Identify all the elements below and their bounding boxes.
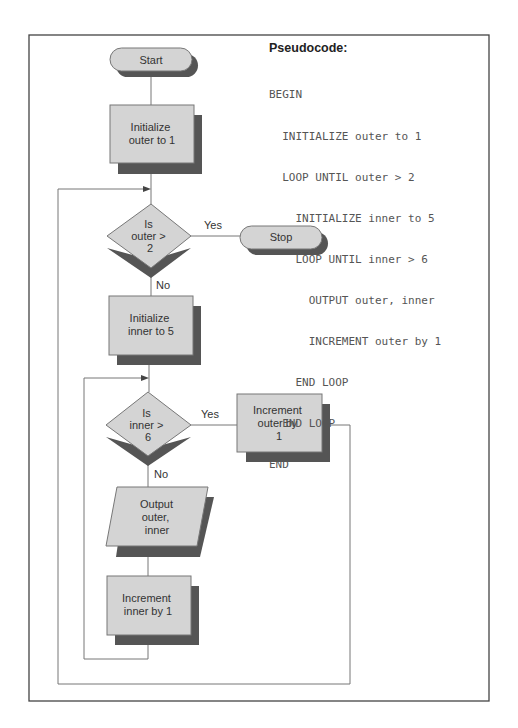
- init-inner-line-2: inner to 5: [128, 325, 174, 337]
- decision-outer-no-label: No: [156, 279, 170, 291]
- decision-outer-line-3: 2: [147, 242, 153, 254]
- figure: Start Initialize outer to 1 Is outer > 2…: [0, 0, 518, 728]
- decision-outer-line-2: outer >: [131, 230, 166, 242]
- decision-outer-line-1: Is: [144, 218, 153, 230]
- pseudocode-line: INCREMENT outer by 1: [269, 335, 441, 349]
- output-line-1: Output: [140, 498, 173, 510]
- pseudocode-line: END LOOP: [269, 417, 441, 431]
- decision-inner-yes-label: Yes: [201, 408, 219, 420]
- pseudocode-line: OUTPUT outer, inner: [269, 294, 441, 308]
- decision-inner-line-3: 6: [145, 431, 151, 443]
- init-outer-line-2: outer to 1: [129, 134, 175, 146]
- decision-outer-yes-label: Yes: [204, 219, 222, 231]
- decision-inner-no-label: No: [154, 468, 168, 480]
- pseudocode-line: BEGIN: [269, 88, 441, 102]
- output-line-3: inner: [145, 524, 170, 536]
- init-outer-box: Initialize outer to 1: [110, 105, 202, 174]
- decision-inner-line-2: inner >: [129, 419, 163, 431]
- init-inner-line-1: Initialize: [130, 312, 170, 324]
- increment-inner-line-2: inner by 1: [124, 605, 172, 617]
- pseudocode-line: END LOOP: [269, 376, 441, 390]
- pseudocode-block: Pseudocode: BEGIN INITIALIZE outer to 1 …: [269, 41, 441, 500]
- output-line-2: outer,: [142, 511, 170, 523]
- pseudocode-line: LOOP UNTIL outer > 2: [269, 171, 441, 185]
- pseudocode-line: INITIALIZE inner to 5: [269, 212, 441, 226]
- svg-text:Initialize outer to 1: Initialize outer to 1: [129, 121, 175, 146]
- init-outer-line-1: Initialize: [131, 121, 171, 133]
- init-inner-box: Initialize inner to 5: [109, 296, 201, 365]
- svg-text:Increment inner by 1: Increment inner by 1: [122, 592, 174, 617]
- arrowhead-outer-loop-icon: [143, 186, 151, 192]
- start-label: Start: [139, 54, 162, 66]
- pseudocode-line: INITIALIZE outer to 1: [269, 130, 441, 144]
- increment-inner-box: Increment inner by 1: [107, 576, 199, 645]
- pseudocode-lines: BEGIN INITIALIZE outer to 1 LOOP UNTIL o…: [269, 61, 441, 500]
- decision-outer-diamond: Is outer > 2 Yes No: [107, 204, 222, 291]
- pseudocode-line: END: [269, 458, 441, 472]
- increment-inner-line-1: Increment: [122, 592, 171, 604]
- decision-inner-line-1: Is: [142, 407, 151, 419]
- pseudocode-line: LOOP UNTIL inner > 6: [269, 253, 441, 267]
- arrowhead-inner-loop-icon: [141, 375, 149, 381]
- decision-inner-diamond: Is inner > 6 Yes No: [106, 392, 219, 480]
- start-terminal: Start: [110, 48, 198, 77]
- svg-text:Initialize inner to 5: Initialize inner to 5: [128, 312, 174, 337]
- pseudocode-title: Pseudocode:: [269, 41, 441, 55]
- output-io: Output outer, inner: [106, 487, 214, 557]
